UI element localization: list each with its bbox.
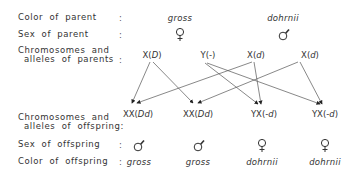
offspring-color-4: dohrnii — [309, 157, 341, 167]
offspring-color-1: gross — [127, 157, 151, 167]
arrow-XD-to-offspring-1 — [132, 62, 150, 103]
arrow-Xd1-to-offspring-3 — [254, 62, 261, 104]
offspring-chromosomes-4: YX(-d) — [312, 109, 338, 119]
arrow-Xd1-to-offspring-1 — [137, 62, 252, 103]
arrow-Y-to-offspring-4 — [207, 63, 320, 104]
female-symbol-icon — [319, 138, 331, 154]
offspring-chromosomes-1: XX(Dd) — [123, 109, 153, 119]
female-symbol-icon — [256, 138, 268, 154]
offspring-color-2: gross — [186, 157, 210, 167]
arrow-XD-to-offspring-2 — [153, 62, 193, 103]
offspring-chromosomes-2: XX(Dd) — [183, 109, 213, 119]
offspring-color-3: dohrnii — [246, 157, 278, 167]
male-symbol-icon — [132, 137, 146, 153]
offspring-chromosomes-3: YX(-d) — [251, 109, 277, 119]
male-symbol-icon — [192, 137, 206, 153]
inheritance-arrows — [0, 0, 360, 175]
arrow-Xd2-to-offspring-2 — [198, 62, 298, 103]
